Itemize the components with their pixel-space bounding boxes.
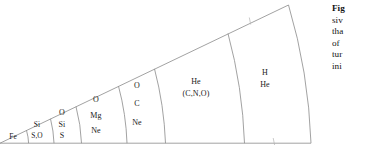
- caption-line: ini: [332, 61, 370, 73]
- shell-label-line: H: [260, 67, 270, 79]
- shell-label-line: Fe: [9, 132, 17, 143]
- shell-label-line: S: [59, 130, 66, 142]
- caption-line: tur: [332, 49, 370, 61]
- shell-label-line: Si: [31, 120, 43, 131]
- shell-label-o-si-s: O Si S: [59, 107, 66, 142]
- wedge-diagram: Fe Si S,O O Si S O Mg Ne O C Ne He (C,N,…: [0, 0, 322, 145]
- shell-label-fe: Fe: [9, 132, 17, 143]
- shell-boundary-arc-1: [27, 130, 29, 143]
- shell-label-line: O: [90, 92, 101, 108]
- shell-boundary-arc-4: [119, 86, 128, 143]
- caption-line: tha: [332, 26, 370, 38]
- shell-label-line: Ne: [132, 114, 142, 132]
- shell-boundary-arc-5: [155, 69, 166, 143]
- shell-boundary-arc-3: [76, 107, 82, 144]
- shell-label-line: O: [59, 107, 66, 119]
- shell-label-line: S,O: [31, 131, 43, 142]
- tick-lower-boundary: [273, 138, 274, 145]
- shell-boundary-arc-6: [228, 34, 245, 144]
- shell-label-line: Ne: [90, 123, 101, 139]
- caption-line: of: [332, 38, 370, 50]
- shell-label-line: He: [183, 76, 210, 88]
- shell-label-h-he: H He: [260, 67, 270, 90]
- wedge-upper-boundary: [0, 5, 289, 143]
- shell-label-line: Mg: [90, 107, 101, 123]
- shell-label-line: O: [132, 77, 142, 95]
- shell-label-line: (C,N,O): [183, 88, 210, 100]
- shell-label-o-mg-ne: O Mg Ne: [90, 92, 101, 139]
- shell-label-line: Si: [59, 118, 66, 130]
- wedge-vector-graphic: [0, 0, 322, 145]
- figure-caption: Fig siv tha of tur ini: [332, 3, 370, 73]
- caption-line: Fig: [332, 3, 370, 15]
- outer-surface-arc: [289, 5, 312, 143]
- shell-label-he-cno: He (C,N,O): [183, 76, 210, 99]
- shell-label-line: C: [132, 96, 142, 114]
- shell-label-si-so: Si S,O: [31, 120, 43, 141]
- shell-label-o-c-ne: O C Ne: [132, 77, 142, 132]
- figure-page: Fe Si S,O O Si S O Mg Ne O C Ne He (C,N,…: [0, 0, 370, 145]
- shell-label-line: He: [260, 79, 270, 91]
- shell-boundary-arc-2: [51, 119, 55, 143]
- caption-line: siv: [332, 15, 370, 27]
